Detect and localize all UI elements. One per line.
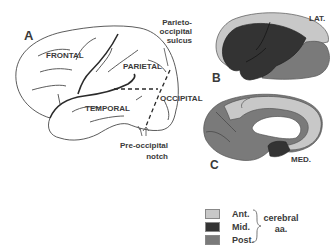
lobe-label-occipital: OCCIPITAL [160, 94, 203, 103]
swatch-posterior [205, 235, 220, 245]
legend-item-posterior: Post. [205, 234, 254, 246]
pre-occipital-notch-label: Pre-occipital notch [112, 140, 168, 162]
panel-label-c: C [210, 158, 219, 172]
lateral-label: LAT. [309, 14, 325, 23]
swatch-anterior [205, 209, 220, 219]
panel-label-b: B [212, 71, 221, 85]
swatch-middle [205, 222, 220, 232]
medial-label: MED. [291, 155, 311, 164]
lobe-label-frontal: FRONTAL [46, 51, 84, 60]
lobe-label-parietal: PARIETAL [123, 62, 162, 71]
panel-c-medial-territories [204, 94, 323, 160]
panel-label-a: A [24, 28, 33, 43]
legend-item-anterior: Ant. [205, 208, 250, 220]
lobe-label-temporal: TEMPORAL [85, 104, 130, 113]
legend-item-middle: Mid. [205, 221, 250, 233]
legend: Ant. Mid. Post. cerebral aa. [205, 205, 315, 251]
legend-group-label: cerebral aa. [261, 213, 301, 235]
parieto-occipital-sulcus-label: Parieto- occipital sulcus [152, 18, 192, 45]
